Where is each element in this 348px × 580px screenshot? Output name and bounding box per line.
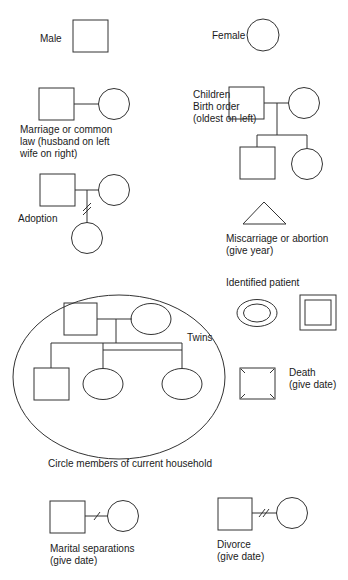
household-label: Circle members of current household bbox=[48, 458, 212, 469]
adoptive-mother-circle-icon bbox=[99, 175, 130, 206]
identified-patient-label: Identified patient bbox=[226, 277, 300, 288]
household-symbol-group: Twins Circle members of current househol… bbox=[13, 295, 225, 469]
death-arrow-tl bbox=[241, 369, 245, 373]
genogram-legend: Male Female Marriage or common law (husb… bbox=[0, 0, 348, 580]
mother-circle-icon bbox=[289, 88, 320, 119]
adoption-symbol-group: Adoption bbox=[18, 174, 130, 254]
death-label-line-1: Death bbox=[289, 367, 316, 378]
wife-circle-icon bbox=[99, 89, 130, 120]
twin-1-ellipse-icon bbox=[83, 369, 123, 400]
male-symbol-group: Male bbox=[40, 20, 108, 52]
death-arrow-tr bbox=[270, 369, 274, 373]
household-son-square-icon bbox=[34, 368, 69, 400]
miscarriage-triangle-icon bbox=[243, 202, 286, 224]
marital-separation-symbol-group: Marital separations (give date) bbox=[50, 501, 139, 567]
miscarriage-label-line-1: Miscarriage or abortion bbox=[226, 233, 328, 244]
oldest-son-square-icon bbox=[240, 147, 275, 179]
household-father-square-icon bbox=[64, 303, 97, 335]
miscarriage-label-line-2: (give year) bbox=[226, 245, 273, 256]
younger-daughter-circle-icon bbox=[292, 149, 323, 180]
adopted-child-circle-icon bbox=[72, 223, 103, 254]
death-arrow-bl bbox=[241, 394, 245, 398]
adoptive-father-square-icon bbox=[40, 174, 75, 206]
children-label-line-1: Children bbox=[193, 89, 230, 100]
marriage-symbol-group: Marriage or common law (husband on left … bbox=[19, 88, 130, 159]
children-symbol-group: Children Birth order (oldest on left) bbox=[193, 87, 323, 180]
divorce-label-line-2: (give date) bbox=[217, 551, 264, 562]
miscarriage-symbol-group: Miscarriage or abortion (give year) bbox=[226, 202, 328, 256]
identified-patient-symbol-group: Identified patient bbox=[226, 277, 336, 330]
separation-husband-square-icon bbox=[50, 501, 85, 533]
separation-wife-circle-icon bbox=[108, 501, 139, 532]
divorce-wife-circle-icon bbox=[277, 498, 308, 529]
twins-label: Twins bbox=[187, 332, 213, 343]
female-circle-icon bbox=[247, 19, 279, 51]
household-mother-ellipse-icon bbox=[131, 304, 171, 335]
male-label: Male bbox=[40, 33, 62, 44]
female-symbol-group: Female bbox=[212, 19, 279, 51]
divorce-symbol-group: Divorce (give date) bbox=[217, 498, 308, 563]
divorce-husband-square-icon bbox=[218, 498, 252, 530]
death-arrow-br bbox=[270, 394, 274, 398]
twin-2-ellipse-icon bbox=[162, 369, 202, 400]
adoption-label: Adoption bbox=[18, 213, 57, 224]
identified-patient-male-inner-icon bbox=[305, 300, 331, 325]
death-symbol-group: Death (give date) bbox=[240, 367, 336, 399]
male-square-icon bbox=[73, 20, 108, 52]
identified-patient-female-inner-icon bbox=[244, 304, 271, 322]
household-circle bbox=[13, 295, 225, 459]
marriage-label-line-1: Marriage or common bbox=[20, 124, 112, 135]
marriage-label-line-3: wife on right) bbox=[19, 148, 77, 159]
husband-square-icon bbox=[39, 88, 74, 120]
separation-label-line-1: Marital separations bbox=[50, 543, 134, 554]
death-label-line-2: (give date) bbox=[289, 379, 336, 390]
marriage-label-line-2: law (husband on left bbox=[20, 136, 110, 147]
separation-label-line-2: (give date) bbox=[50, 555, 97, 566]
female-label: Female bbox=[212, 30, 246, 41]
divorce-label-line-1: Divorce bbox=[217, 539, 251, 550]
children-label-line-2: Birth order bbox=[193, 101, 240, 112]
